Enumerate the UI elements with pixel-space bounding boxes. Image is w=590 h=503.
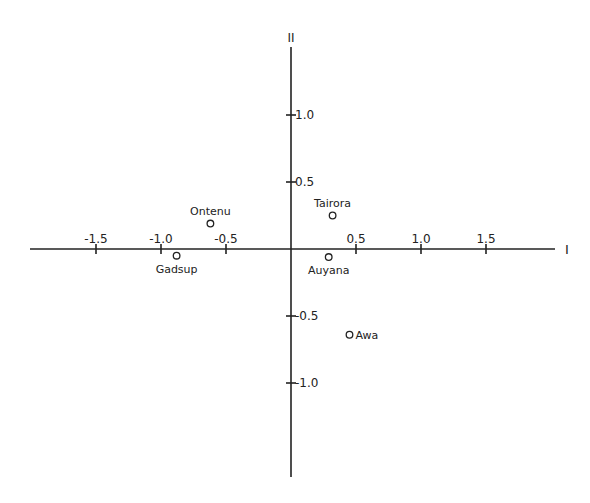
x-tick-label: -1.0 (149, 232, 172, 246)
data-point-label: Auyana (308, 264, 349, 277)
x-tick-label: 0.5 (346, 232, 365, 246)
data-point-label: Tairora (313, 197, 351, 210)
data-point-marker (173, 252, 180, 259)
scatter-plot: III-1.5-1.0-0.50.51.01.51.00.5-0.5-1.0On… (0, 0, 590, 503)
y-tick-label: -1.0 (295, 376, 318, 390)
x-tick-label: 1.5 (476, 232, 495, 246)
x-tick-label: -0.5 (214, 232, 237, 246)
data-point-marker (325, 254, 332, 261)
x-axis-label: I (565, 242, 569, 257)
data-point-marker (346, 331, 353, 338)
y-tick-label: 0.5 (295, 175, 314, 189)
data-point-label: Gadsup (156, 263, 198, 276)
y-tick-label: -0.5 (295, 309, 318, 323)
data-point-label: Ontenu (190, 205, 231, 218)
data-point-marker (207, 220, 214, 227)
x-tick-label: 1.0 (411, 232, 430, 246)
data-point-label: Awa (356, 329, 379, 342)
x-tick-label: -1.5 (84, 232, 107, 246)
y-tick-label: 1.0 (295, 108, 314, 122)
y-axis-label: II (287, 31, 294, 45)
data-point-marker (329, 212, 336, 219)
